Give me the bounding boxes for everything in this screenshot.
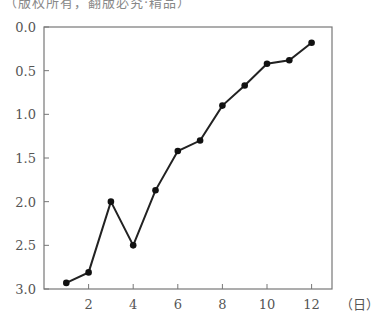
data-point xyxy=(152,187,159,194)
data-point xyxy=(308,39,315,46)
x-tick-label: 4 xyxy=(129,297,137,312)
data-point xyxy=(264,60,271,67)
data-point xyxy=(286,57,293,64)
data-point xyxy=(197,137,204,144)
data-point xyxy=(130,242,137,249)
line-chart: 0.00.51.01.52.02.53.0 24681012 （日） xyxy=(0,0,389,335)
y-tick-label: 0.5 xyxy=(15,64,36,79)
data-point xyxy=(175,148,182,155)
data-point xyxy=(108,198,115,205)
x-axis-unit-label: （日） xyxy=(340,297,379,312)
y-tick-label: 2.5 xyxy=(15,238,36,253)
x-tick-label: 6 xyxy=(174,297,182,312)
x-tick-label: 2 xyxy=(84,297,92,312)
data-point xyxy=(241,82,248,89)
plot-frame xyxy=(44,27,332,289)
y-tick-label: 1.5 xyxy=(15,151,36,166)
series-line xyxy=(66,43,311,283)
y-tick-label: 0.0 xyxy=(15,20,36,35)
x-axis-ticks: 24681012 xyxy=(84,284,319,312)
x-tick-label: 12 xyxy=(303,297,320,312)
data-point xyxy=(63,280,70,287)
plot-axes xyxy=(44,27,332,289)
x-tick-label: 10 xyxy=(259,297,276,312)
x-tick-label: 8 xyxy=(218,297,226,312)
y-tick-label: 1.0 xyxy=(15,107,36,122)
data-series xyxy=(63,39,315,286)
y-tick-label: 2.0 xyxy=(15,195,36,210)
data-point xyxy=(219,102,226,109)
data-point xyxy=(85,269,92,276)
y-tick-label: 3.0 xyxy=(15,282,36,297)
